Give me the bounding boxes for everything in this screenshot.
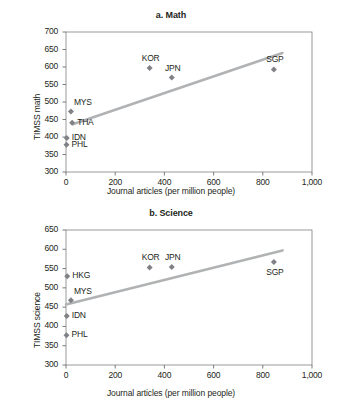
x-tick-label: 800 bbox=[243, 177, 283, 187]
x-tick-label: 400 bbox=[144, 177, 184, 187]
x-tick-label: 800 bbox=[243, 370, 283, 380]
y-tick-label: 350 bbox=[24, 149, 58, 159]
x-tick-label: 600 bbox=[194, 370, 234, 380]
data-point-label: KOR bbox=[140, 252, 162, 262]
y-tick-label: 400 bbox=[24, 320, 58, 330]
data-point-label: IDN bbox=[72, 310, 86, 320]
y-tick-label: 500 bbox=[24, 282, 58, 292]
x-tick-label: 1,000 bbox=[292, 370, 332, 380]
figure-scatter-panels: a. Math TIMSS math Journal articles (per… bbox=[0, 0, 342, 409]
data-point-label: PHL bbox=[71, 329, 87, 339]
chart-panel-science: b. Science TIMSS science Journal article… bbox=[0, 200, 342, 409]
data-point-label: THA bbox=[77, 117, 93, 127]
x-tick-label: 200 bbox=[95, 370, 135, 380]
x-tick-label: 0 bbox=[46, 370, 86, 380]
y-tick-label: 600 bbox=[24, 243, 58, 253]
y-tick-label: 300 bbox=[24, 166, 58, 176]
y-tick-label: 550 bbox=[24, 263, 58, 273]
y-tick-label: 500 bbox=[24, 96, 58, 106]
x-tick-label: 1,000 bbox=[292, 177, 332, 187]
data-point-label: JPN bbox=[162, 252, 184, 262]
y-tick-label: 400 bbox=[24, 131, 58, 141]
x-tick-label: 600 bbox=[194, 177, 234, 187]
data-point-label: SGP bbox=[264, 54, 286, 64]
y-tick-label: 550 bbox=[24, 79, 58, 89]
x-tick-label: 200 bbox=[95, 177, 135, 187]
y-tick-label: 650 bbox=[24, 44, 58, 54]
data-point-label: SGP bbox=[264, 267, 286, 277]
data-point-label: JPN bbox=[162, 63, 184, 73]
y-tick-label: 350 bbox=[24, 340, 58, 350]
y-tick-label: 650 bbox=[24, 224, 58, 234]
data-point-label: KOR bbox=[140, 53, 162, 63]
y-tick-label: 450 bbox=[24, 301, 58, 311]
y-tick-label: 700 bbox=[24, 26, 58, 36]
y-tick-label: 450 bbox=[24, 114, 58, 124]
data-point-label: HKG bbox=[72, 270, 90, 280]
x-tick-label: 0 bbox=[46, 177, 86, 187]
x-tick-label: 400 bbox=[144, 370, 184, 380]
data-point-label: MYS bbox=[74, 97, 92, 107]
data-point-label: MYS bbox=[74, 286, 92, 296]
y-tick-label: 600 bbox=[24, 61, 58, 71]
y-tick-label: 300 bbox=[24, 359, 58, 369]
chart-panel-math: a. Math TIMSS math Journal articles (per… bbox=[0, 0, 342, 205]
data-point-label: PHL bbox=[71, 139, 87, 149]
